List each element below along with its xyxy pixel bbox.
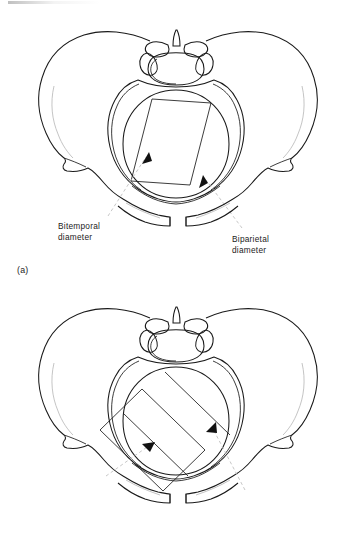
right-superior-articular-facet: [196, 330, 213, 352]
figure-root: Bitemporal diameter Biparietal diameter …: [0, 0, 352, 544]
vertebral-spinous-process: [173, 307, 180, 323]
pelvic-brim-inner-line: [112, 84, 141, 190]
bitemporal-label-line2-a: diameter: [58, 232, 100, 243]
panel-a: Bitemporal diameter Biparietal diameter …: [0, 0, 352, 272]
right-iliac-wing-inner-contour: [283, 363, 304, 435]
biparietal-arrowhead-a: [199, 175, 208, 188]
pelvic-brim-inner-line-right: [211, 361, 240, 467]
pelvic-brim-inner-line-right: [211, 84, 240, 190]
biparietal-label-line1-a: Biparietal: [232, 234, 269, 245]
right-iliac-wing-inner-contour: [283, 86, 304, 158]
bitemporal-diameter-label-a: Bitemporal diameter: [58, 221, 100, 243]
right-superior-pubic-ramus: [186, 476, 238, 503]
left-iliac-wing-inner-contour: [52, 86, 73, 158]
right-iliac-wing-outline: [206, 309, 317, 476]
right-transverse-process: [184, 319, 208, 334]
left-iliac-wing-outline: [39, 32, 150, 199]
left-iliac-wing-outline: [39, 309, 150, 476]
head-quadrilateral-diagonal-upper: [165, 372, 230, 435]
bitemporal-arrowhead-a: [142, 152, 152, 164]
right-transverse-process: [184, 42, 208, 57]
pelvis-diagram-a: [0, 0, 352, 272]
pelvis-diagram-b: [0, 272, 352, 544]
biparietal-label-line2-a: diameter: [232, 245, 269, 256]
bitemporal-label-line1-a: Bitemporal: [58, 221, 100, 232]
bitemporal-diameter-chord: [131, 99, 152, 181]
left-ilium-lower-edge: [64, 158, 86, 167]
biparietal-arrowhead-b: [206, 422, 217, 433]
bitemporal-leader-line-b-visible: [106, 445, 150, 476]
biparietal-diameter-label-a: Biparietal diameter: [232, 234, 269, 256]
left-ilium-lower-edge: [64, 435, 86, 444]
biparietal-diameter-chord: [190, 103, 211, 185]
vertebral-spinous-process: [173, 30, 180, 46]
bitemporal-arrowhead-b: [142, 442, 155, 452]
right-iliac-wing-outline: [206, 32, 317, 199]
head-quadrilateral-diagonal-lower: [123, 413, 188, 476]
head-quadrilateral-top-edge: [152, 99, 211, 103]
right-ilium-lower-edge: [270, 435, 292, 444]
bitemporal-diameter-chord: [100, 389, 142, 430]
head-quadrilateral-bottom-edge: [100, 430, 163, 491]
left-iliac-wing-inner-contour: [52, 363, 73, 435]
left-superior-pubic-ramus: [118, 199, 170, 226]
right-superior-articular-facet: [196, 53, 213, 75]
right-superior-pubic-ramus: [186, 199, 238, 226]
panel-b: Bitemporal diameter Biparietal diameter …: [0, 272, 352, 544]
right-ilium-lower-edge: [270, 158, 292, 167]
left-superior-pubic-ramus: [118, 476, 170, 503]
